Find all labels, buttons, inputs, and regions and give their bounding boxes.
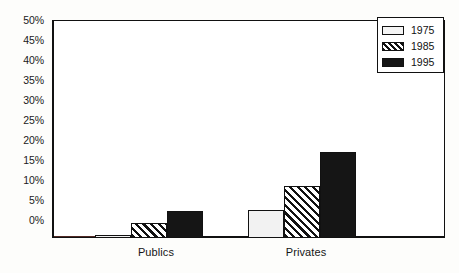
scan-artifact-line	[54, 236, 174, 237]
x-axis-label-privates: Privates	[258, 246, 354, 258]
legend-swatch-1995-icon	[382, 58, 404, 67]
y-tick-label-40: 40%	[23, 54, 44, 66]
y-tick-label-30: 30%	[23, 94, 44, 106]
legend-item-1975: 1975	[382, 22, 443, 38]
legend: 1975 1985 1995	[377, 17, 444, 73]
bar-chart: 50% 45% 40% 35% 30% 25% 20% 15% 10% 5% 0…	[0, 0, 459, 273]
y-tick-label-20: 20%	[23, 134, 44, 146]
y-tick-label-45: 45%	[23, 34, 44, 46]
y-tick-label-0: 0%	[29, 214, 44, 226]
y-tick-label-50: 50%	[23, 14, 44, 26]
legend-item-1995: 1995	[382, 54, 443, 70]
y-tick-label-25: 25%	[23, 114, 44, 126]
legend-swatch-1985-icon	[382, 42, 404, 51]
y-tick-label-10: 10%	[23, 174, 44, 186]
y-tick-label-35: 35%	[23, 74, 44, 86]
legend-label-1985: 1985	[411, 40, 434, 52]
y-axis: 50% 45% 40% 35% 30% 25% 20% 15% 10% 5% 0…	[0, 14, 52, 246]
y-tick-label-15: 15%	[23, 154, 44, 166]
legend-swatch-1975-icon	[382, 26, 404, 35]
legend-item-1985: 1985	[382, 38, 443, 54]
legend-label-1995: 1995	[411, 56, 434, 68]
legend-label-1975: 1975	[411, 24, 434, 36]
x-axis-label-publics: Publics	[110, 246, 202, 258]
y-tick-label-5: 5%	[29, 194, 44, 206]
